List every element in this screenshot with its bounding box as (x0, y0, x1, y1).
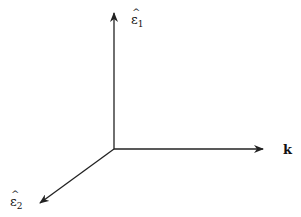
subscript: 1 (138, 19, 144, 29)
epsilon-symbol: ε (131, 13, 138, 26)
epsilon1-label: ε1 (131, 13, 143, 29)
axes-svg (0, 0, 301, 217)
subscript: 2 (17, 201, 23, 211)
epsilon2-label: ε2 (10, 195, 22, 211)
epsilon2-axis (40, 149, 114, 203)
vector-diagram: ε1 k ε2 (0, 0, 301, 217)
k-label: k (283, 143, 292, 156)
epsilon-symbol: ε (10, 195, 17, 208)
